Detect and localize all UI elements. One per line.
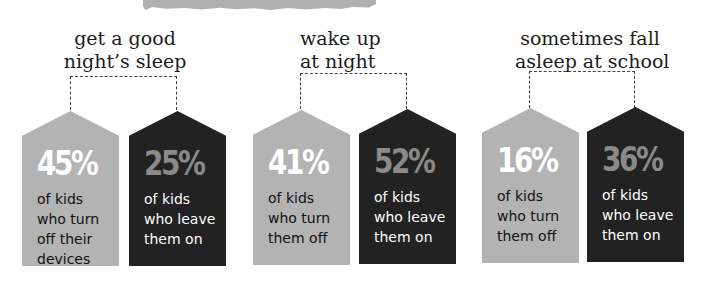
dashed-connector (300, 73, 407, 109)
desc-line: devices (37, 249, 117, 269)
tag-description: of kids who turn off their devices (37, 189, 117, 269)
desc-line: of kids (374, 187, 454, 207)
desc-line: them off (497, 226, 577, 246)
caption-line: get a good (40, 27, 210, 50)
tag-devices-on: 36% of kids who leave them on (587, 107, 684, 262)
tag-devices-on: 25% of kids who leave them on (129, 111, 226, 266)
tag-devices-off: 45% of kids who turn off their devices (22, 111, 119, 266)
percent-value: 16% (497, 140, 556, 180)
caption-line: asleep at school (515, 50, 665, 73)
tag-description: of kids who leave them on (374, 187, 454, 247)
percent-value: 25% (144, 143, 203, 183)
percent-value: 36% (602, 139, 661, 179)
desc-line: them on (374, 227, 454, 247)
group-caption: wake up at night (300, 27, 410, 73)
desc-line: off their (37, 229, 117, 249)
caption-line: at night (300, 50, 410, 73)
desc-line: who turn (37, 209, 117, 229)
desc-line: of kids (144, 189, 224, 209)
desc-line: them off (268, 228, 348, 248)
dashed-connector (70, 76, 177, 110)
caption-line: sometimes fall (515, 27, 665, 50)
torn-paper-banner (143, 0, 376, 10)
caption-line: night’s sleep (40, 50, 210, 73)
group-caption: get a good night’s sleep (40, 27, 210, 73)
desc-line: of kids (268, 188, 348, 208)
dashed-connector (529, 71, 635, 108)
percent-value: 41% (268, 142, 327, 182)
desc-line: who leave (374, 207, 454, 227)
tag-devices-on: 52% of kids who leave them on (359, 109, 456, 264)
desc-line: who turn (497, 206, 577, 226)
percent-value: 52% (374, 141, 433, 181)
caption-line: wake up (300, 27, 410, 50)
tag-description: of kids who turn them off (268, 188, 348, 248)
desc-line: of kids (37, 189, 117, 209)
percent-value: 45% (37, 143, 96, 183)
tag-description: of kids who leave them on (602, 185, 682, 245)
desc-line: who leave (144, 209, 224, 229)
desc-line: who turn (268, 208, 348, 228)
tag-description: of kids who leave them on (144, 189, 224, 249)
desc-line: them on (602, 225, 682, 245)
desc-line: of kids (497, 186, 577, 206)
desc-line: of kids (602, 185, 682, 205)
tag-devices-off: 16% of kids who turn them off (482, 108, 579, 263)
tag-devices-off: 41% of kids who turn them off (253, 110, 350, 265)
desc-line: them on (144, 229, 224, 249)
desc-line: who leave (602, 205, 682, 225)
group-caption: sometimes fall asleep at school (515, 27, 665, 73)
tag-description: of kids who turn them off (497, 186, 577, 246)
